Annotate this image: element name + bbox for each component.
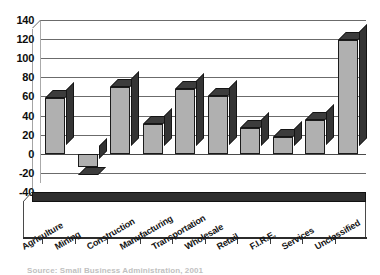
gridline xyxy=(41,58,366,59)
bar-side-face xyxy=(164,108,172,146)
bar-front-face xyxy=(338,40,358,154)
bar-side-face xyxy=(359,24,367,146)
bar xyxy=(338,40,358,154)
plot-left-wall xyxy=(32,20,41,192)
bar-front-face xyxy=(208,96,228,153)
bar-side-face xyxy=(66,82,74,145)
bar xyxy=(45,98,65,153)
bar-side-face xyxy=(131,71,139,146)
bar-front-face xyxy=(143,124,163,154)
plot-area xyxy=(41,20,366,192)
bar-side-face xyxy=(261,112,269,146)
bar xyxy=(208,96,228,153)
bar xyxy=(143,124,163,154)
bar-front-face xyxy=(240,128,260,154)
gridline xyxy=(41,20,366,21)
chart-caption: Source: Small Business Administration, 2… xyxy=(27,266,203,275)
bar-front-face xyxy=(175,89,195,154)
bar xyxy=(175,89,195,154)
bar-side-face xyxy=(229,80,237,145)
bar-side-face xyxy=(294,121,302,146)
bar-front-face xyxy=(45,98,65,153)
bar xyxy=(240,128,260,154)
bar-side-face xyxy=(196,73,204,146)
gridline xyxy=(41,39,366,40)
bar xyxy=(305,120,325,153)
bar xyxy=(273,137,293,154)
bar-top-face xyxy=(78,167,106,175)
bar-side-face xyxy=(99,138,107,159)
bar-side-face xyxy=(326,104,334,145)
chart-floor xyxy=(32,192,366,202)
bar-front-face xyxy=(305,120,325,153)
bar-front-face xyxy=(78,154,98,167)
bar-front-face xyxy=(110,87,130,154)
bar xyxy=(110,87,130,154)
bar-front-face xyxy=(273,137,293,154)
bar xyxy=(78,154,98,167)
